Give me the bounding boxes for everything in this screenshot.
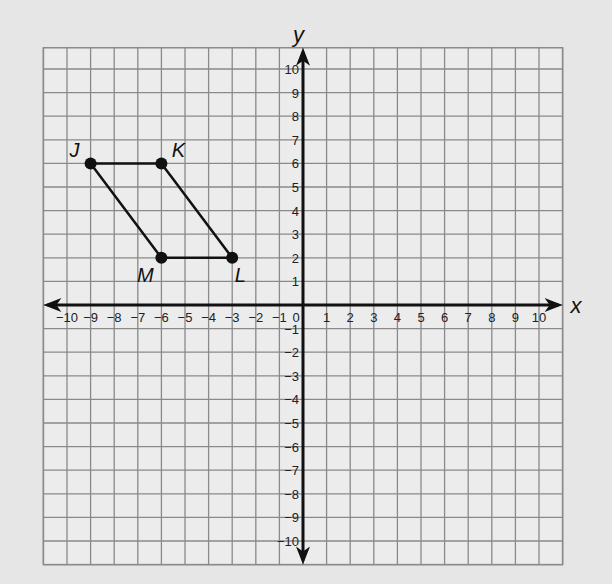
y-tick-label: −8: [284, 487, 299, 502]
y-axis-label: y: [291, 22, 306, 47]
vertex-point-m: [155, 252, 167, 264]
x-tick-label: −10: [56, 310, 78, 325]
vertex-point-j: [85, 157, 97, 169]
y-tick-label: 1: [292, 274, 299, 289]
y-tick-label: 3: [292, 227, 299, 242]
x-tick-label: 1: [323, 310, 330, 325]
y-tick-label: −9: [284, 510, 299, 525]
x-tick-label: 3: [370, 310, 377, 325]
vertex-point-l: [226, 252, 238, 264]
y-tick-label: −4: [284, 392, 299, 407]
y-tick-label: −6: [284, 440, 299, 455]
x-tick-label: 6: [441, 310, 448, 325]
x-tick-label: 7: [465, 310, 472, 325]
x-tick-label: 9: [512, 310, 519, 325]
x-tick-label: 5: [417, 310, 424, 325]
y-tick-label: −3: [284, 369, 299, 384]
vertex-label-l: L: [235, 264, 246, 286]
vertex-label-j: J: [69, 139, 81, 161]
x-axis-label: x: [570, 293, 583, 318]
coordinate-plane: xy−10−9−8−7−6−5−4−3−2−1012345678910−10−9…: [0, 0, 612, 584]
y-tick-label: 6: [292, 156, 299, 171]
x-tick-label: 8: [488, 310, 495, 325]
x-tick-label: −2: [248, 310, 263, 325]
x-tick-label: −7: [130, 310, 145, 325]
x-tick-label: −3: [225, 310, 240, 325]
x-tick-label: −5: [178, 310, 193, 325]
x-tick-label: −4: [201, 310, 216, 325]
x-tick-label: 2: [347, 310, 354, 325]
y-tick-label: −1: [284, 322, 299, 337]
vertex-label-k: K: [172, 139, 187, 161]
x-tick-label: 10: [532, 310, 546, 325]
y-tick-label: −2: [284, 345, 299, 360]
y-tick-label: 8: [292, 109, 299, 124]
y-tick-label: −7: [284, 463, 299, 478]
y-tick-label: −5: [284, 416, 299, 431]
vertex-point-k: [155, 157, 167, 169]
x-tick-label: −6: [154, 310, 169, 325]
y-tick-label: 9: [292, 86, 299, 101]
y-tick-label: 10: [285, 62, 299, 77]
y-tick-label: 4: [292, 204, 299, 219]
y-tick-label: 5: [292, 180, 299, 195]
y-tick-label: 2: [292, 251, 299, 266]
y-tick-label: −10: [277, 534, 299, 549]
vertex-label-m: M: [137, 264, 154, 286]
y-tick-label: 7: [292, 133, 299, 148]
x-tick-label: 4: [394, 310, 401, 325]
x-tick-label: −9: [83, 310, 98, 325]
x-tick-label: −8: [107, 310, 122, 325]
